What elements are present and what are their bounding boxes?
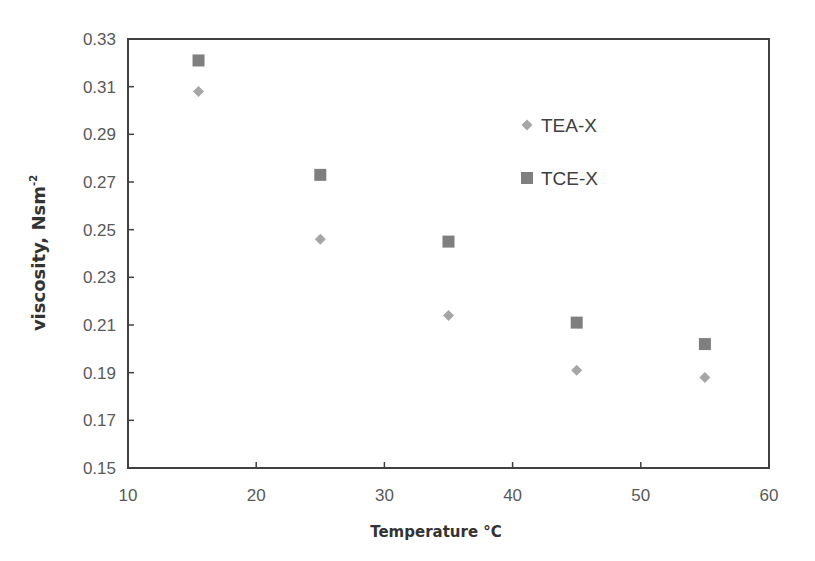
y-tick-label: 0.15 bbox=[83, 459, 116, 478]
x-tick-label: 50 bbox=[631, 486, 650, 505]
x-axis-title: Temperature °C bbox=[370, 523, 502, 541]
square-marker bbox=[193, 54, 205, 66]
square-marker bbox=[314, 169, 326, 181]
y-tick-label: 0.27 bbox=[83, 173, 116, 192]
x-axis-title-text: Temperature bbox=[370, 523, 483, 541]
legend-label: TEA-X bbox=[541, 115, 597, 136]
diamond-marker bbox=[193, 86, 204, 97]
diamond-marker bbox=[699, 372, 710, 383]
x-tick-label: 20 bbox=[247, 486, 266, 505]
legend-square-icon bbox=[521, 172, 533, 184]
data-points bbox=[193, 54, 711, 382]
diamond-marker bbox=[443, 310, 454, 321]
square-marker bbox=[699, 338, 711, 350]
y-axis-title: viscosity, Nsm-2 bbox=[28, 175, 49, 331]
legend: TEA-XTCE-X bbox=[521, 115, 598, 189]
plot-area-frame bbox=[128, 39, 769, 468]
y-tick-label: 0.33 bbox=[83, 30, 116, 49]
y-axis-ticks: 0.150.170.190.210.230.250.270.290.310.33 bbox=[83, 30, 134, 478]
x-axis-title-unit: °C bbox=[483, 523, 502, 541]
y-tick-label: 0.23 bbox=[83, 268, 116, 287]
diamond-marker bbox=[315, 234, 326, 245]
diamond-marker bbox=[571, 365, 582, 376]
x-tick-label: 30 bbox=[375, 486, 394, 505]
square-marker bbox=[443, 236, 455, 248]
y-tick-label: 0.19 bbox=[83, 364, 116, 383]
x-tick-label: 10 bbox=[119, 486, 138, 505]
x-tick-label: 40 bbox=[503, 486, 522, 505]
y-tick-label: 0.17 bbox=[83, 411, 116, 430]
legend-diamond-icon bbox=[522, 120, 533, 131]
y-axis-title-sup: -2 bbox=[28, 175, 39, 186]
x-tick-label: 60 bbox=[760, 486, 779, 505]
y-tick-label: 0.21 bbox=[83, 316, 116, 335]
y-axis-title-text: viscosity, Nsm bbox=[28, 186, 49, 331]
square-marker bbox=[571, 317, 583, 329]
y-tick-label: 0.25 bbox=[83, 221, 116, 240]
y-tick-label: 0.29 bbox=[83, 125, 116, 144]
scatter-chart: 0.150.170.190.210.230.250.270.290.310.33… bbox=[0, 0, 815, 561]
y-tick-label: 0.31 bbox=[83, 78, 116, 97]
legend-label: TCE-X bbox=[541, 168, 598, 189]
